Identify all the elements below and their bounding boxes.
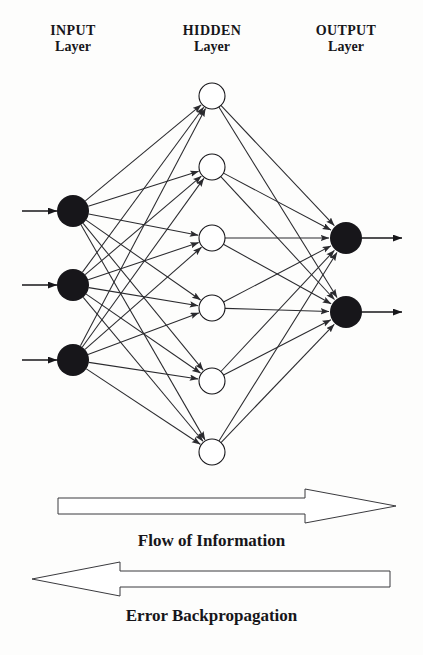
neuron-hidden-h6: [199, 439, 225, 465]
neuron-hidden-h1: [199, 83, 225, 109]
neuron-input-i1: [57, 195, 89, 227]
neuron-input-i2: [57, 269, 89, 301]
neuron-input-i3: [57, 344, 89, 376]
connection-line: [83, 297, 203, 441]
connection-line: [224, 246, 331, 302]
neuron-hidden-h3: [199, 225, 225, 251]
connection-line: [221, 324, 334, 442]
connection-line: [223, 173, 330, 230]
backward-flow-caption: Error Backpropagation: [0, 606, 423, 626]
forward-flow-caption: Flow of Information: [0, 531, 423, 551]
neuron-hidden-h4: [199, 295, 225, 321]
neuron-output-o1: [330, 222, 362, 254]
connection-line: [81, 225, 205, 440]
connection-line: [88, 242, 199, 279]
connection-line: [219, 252, 337, 441]
connection-line: [89, 288, 198, 306]
forward-arrow: [58, 489, 396, 523]
connection-line: [88, 313, 199, 354]
neuron-nodes: [57, 83, 362, 465]
connection-line: [86, 369, 200, 444]
neuron-hidden-h2: [199, 154, 225, 180]
neural-network-diagram: INPUT Layer HIDDEN Layer OUTPUT Layer Fl…: [0, 0, 423, 655]
connection-line: [85, 105, 201, 201]
connection-line: [221, 105, 334, 225]
backward-arrow: [32, 562, 390, 596]
connection-line: [82, 178, 203, 347]
neuron-output-o2: [330, 296, 362, 328]
connection-line: [80, 108, 205, 345]
connection-line: [89, 362, 198, 379]
network-graph: [0, 0, 423, 500]
neuron-hidden-h5: [199, 368, 225, 394]
